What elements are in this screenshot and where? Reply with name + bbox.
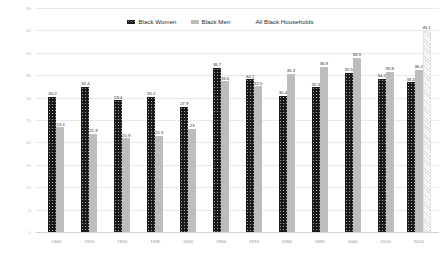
x-axis-tick: 1970 — [238, 239, 271, 251]
bar-group: 32.421.9 — [73, 8, 106, 232]
bar[interactable]: 35.5 — [345, 73, 353, 232]
bar-value-label: 34.1 — [246, 74, 254, 79]
bar-slot: 36.7 — [213, 8, 221, 232]
y-axis-tick: 50 — [26, 6, 31, 11]
y-axis-tick: 15 — [26, 162, 31, 167]
bar-value-label: 38.9 — [353, 52, 361, 57]
bar[interactable]: 33.6 — [221, 81, 229, 232]
bar[interactable]: 36.2 — [415, 70, 423, 232]
bar-slot: 30.2 — [48, 8, 56, 232]
bar-slot: 35.3 — [287, 8, 295, 232]
x-axis-tick: 1960 — [205, 239, 238, 251]
bar[interactable]: 36.9 — [320, 67, 328, 232]
bar-slot: 35.5 — [345, 8, 353, 232]
bar[interactable]: 27.9 — [180, 107, 188, 232]
bar[interactable]: 34.2 — [378, 79, 386, 232]
bar-value-label: 21.5 — [155, 130, 163, 135]
bar-group: 36.733.6 — [205, 8, 238, 232]
bar-value-label: 21.9 — [89, 128, 97, 133]
bar-slot: 29.4 — [114, 8, 122, 232]
x-axis-tick: 1900 — [40, 239, 73, 251]
bar-value-label: 32.5 — [254, 81, 262, 86]
bar[interactable]: 38.9 — [353, 58, 361, 232]
bar-value-label: 29.4 — [114, 95, 122, 100]
bar[interactable]: 32.5 — [254, 86, 262, 232]
bar[interactable]: 23.4 — [56, 127, 64, 232]
bar-value-label: 35.8 — [385, 66, 393, 71]
plot-area: 30.223.432.421.929.420.930.221.527.92336… — [36, 8, 439, 232]
x-axis-tick: 1990 — [303, 239, 336, 251]
bar-slot: 45.1 — [423, 8, 431, 232]
bar-value-label: 36.9 — [320, 61, 328, 66]
bar-value-label: 33.4 — [406, 77, 414, 82]
bar[interactable]: 35.8 — [386, 72, 394, 232]
y-axis-tick: 5 — [29, 207, 31, 212]
bar-slot: 35.8 — [386, 8, 394, 232]
bar[interactable]: 30.2 — [48, 97, 56, 232]
bar-slot: 23.4 — [56, 8, 64, 232]
bar-value-label: 36.2 — [414, 64, 422, 69]
bar-value-label: 20.9 — [122, 133, 130, 138]
bar-group: 34.132.5 — [238, 8, 271, 232]
bar-value-label: 30.2 — [48, 91, 56, 96]
bar-group: 29.420.9 — [106, 8, 139, 232]
bar-slot: 34.1 — [246, 8, 254, 232]
bar-value-label: 33.6 — [221, 76, 229, 81]
bar[interactable]: 20.9 — [122, 138, 130, 232]
bar-slot: 20.9 — [122, 8, 130, 232]
y-axis-tick: 25 — [26, 118, 31, 123]
bar[interactable]: 23 — [188, 129, 196, 232]
y-axis-tick: 35 — [26, 73, 31, 78]
bar[interactable]: 32.4 — [81, 87, 89, 232]
bar[interactable]: 34.1 — [246, 79, 254, 232]
gridline — [36, 232, 439, 233]
y-axis-tick: 20 — [26, 140, 31, 145]
x-axis-tick: 1940 — [172, 239, 205, 251]
bar-slot: 32.3 — [312, 8, 320, 232]
bar-slot: 23 — [188, 8, 196, 232]
bar-value-label: 27.9 — [180, 101, 188, 106]
x-axis-tick: 1920 — [106, 239, 139, 251]
bar[interactable]: 32.3 — [312, 87, 320, 232]
bar-value-label: 35.5 — [345, 67, 353, 72]
bar[interactable]: 21.5 — [155, 136, 163, 232]
bar-group: 35.538.9 — [336, 8, 369, 232]
bar-group: 30.223.4 — [40, 8, 73, 232]
bar[interactable]: 36.7 — [213, 68, 221, 232]
bar-slot: 38.9 — [353, 8, 361, 232]
bar[interactable]: 35.3 — [287, 74, 295, 232]
bar[interactable]: 29.4 — [114, 100, 122, 232]
x-axis-tick: 1930 — [139, 239, 172, 251]
bar-value-label: 34.2 — [377, 73, 385, 78]
x-axis-tick: 2000 — [336, 239, 369, 251]
bar[interactable]: 33.4 — [407, 82, 415, 232]
y-axis-tick: 30 — [26, 95, 31, 100]
bar-value-label: 23.4 — [56, 122, 64, 127]
y-axis: 05101520253035404550 — [0, 8, 36, 232]
bar-value-label: 23 — [190, 123, 195, 128]
x-axis-tick: 1980 — [270, 239, 303, 251]
x-axis-tick: 2014 — [402, 239, 435, 251]
y-axis-tick: 0 — [29, 230, 31, 235]
y-axis-tick: 45 — [26, 28, 31, 33]
bar[interactable]: 30.2 — [147, 97, 155, 232]
bar-value-label: 32.3 — [312, 82, 320, 87]
bar-group: 27.923 — [172, 8, 205, 232]
bar-group: 33.436.245.1 — [402, 8, 435, 232]
bar[interactable]: 21.9 — [89, 134, 97, 232]
bar-value-label: 36.7 — [213, 62, 221, 67]
bar[interactable]: 45.1 — [423, 30, 431, 232]
bar-slot: 30.2 — [147, 8, 155, 232]
bar[interactable]: 30.4 — [279, 96, 287, 232]
bar-slot: 33.4 — [407, 8, 415, 232]
bar-slot: 32.4 — [81, 8, 89, 232]
bar-slot: 33.6 — [221, 8, 229, 232]
grouped-bar-chart: 05101520253035404550 30.223.432.421.929.… — [0, 0, 441, 263]
bar-slot: 34.2 — [378, 8, 386, 232]
bar-groups: 30.223.432.421.929.420.930.221.527.92336… — [36, 8, 439, 232]
bar-value-label: 30.2 — [147, 91, 155, 96]
bar-group: 32.336.9 — [303, 8, 336, 232]
bar-slot: 27.9 — [180, 8, 188, 232]
bar-slot: 30.4 — [279, 8, 287, 232]
bar-group: 34.235.8 — [369, 8, 402, 232]
